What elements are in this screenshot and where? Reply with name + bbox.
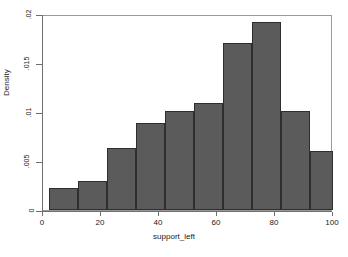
- histogram-bar: [78, 181, 107, 210]
- histogram-bar: [223, 43, 252, 210]
- histogram-bar: [165, 111, 194, 210]
- x-axis-tick-label: 20: [85, 218, 115, 227]
- y-axis-tick: [36, 15, 42, 16]
- x-axis-tick: [216, 212, 217, 216]
- x-axis-tick-label: 60: [201, 218, 231, 227]
- histogram-bar: [49, 188, 78, 210]
- y-axis-line: [42, 15, 43, 211]
- bars-container: [43, 16, 331, 210]
- x-axis-tick-label: 40: [143, 218, 173, 227]
- y-axis-tick: [36, 64, 42, 65]
- y-axis-tick: [36, 162, 42, 163]
- x-axis-tick: [100, 212, 101, 216]
- histogram-bar: [107, 148, 136, 210]
- y-axis-tick: [36, 113, 42, 114]
- x-axis-line: [42, 211, 332, 212]
- histogram-bar: [310, 151, 333, 210]
- plot-area: [42, 15, 332, 211]
- y-axis-tick-label: .015: [0, 60, 34, 67]
- x-axis-tick: [332, 212, 333, 216]
- y-axis-title: Density: [2, 69, 11, 96]
- x-axis-title: support_left: [0, 232, 348, 241]
- x-axis-tick: [42, 212, 43, 216]
- histogram-figure: 0.005.01.015.02 Density 020406080100 sup…: [0, 0, 348, 257]
- x-axis-tick-label: 100: [317, 218, 347, 227]
- x-axis-tick-label: 0: [27, 218, 57, 227]
- y-axis-tick-label: 0: [0, 207, 34, 214]
- histogram-bar: [281, 111, 310, 210]
- x-axis-tick: [274, 212, 275, 216]
- histogram-bar: [136, 123, 165, 210]
- y-axis-tick-label: .01: [0, 109, 34, 116]
- histogram-bar: [252, 22, 281, 210]
- x-axis-tick: [158, 212, 159, 216]
- x-axis-tick-label: 80: [259, 218, 289, 227]
- histogram-bar: [194, 103, 223, 210]
- y-axis-tick-label: .02: [0, 11, 34, 18]
- y-axis-tick-label: .005: [0, 158, 34, 165]
